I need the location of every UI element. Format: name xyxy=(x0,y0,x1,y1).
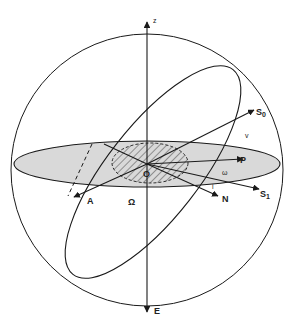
label-omega-node: Ω xyxy=(128,197,135,207)
label-e: E xyxy=(154,306,160,316)
celestial-sphere-diagram: z E O A Ω N P S0 S1 v ω i xyxy=(0,0,292,328)
label-p: P xyxy=(240,155,246,165)
label-s1: S1 xyxy=(260,189,270,200)
label-n: N xyxy=(222,194,229,204)
label-s0: S0 xyxy=(256,107,266,118)
label-o: O xyxy=(143,169,150,179)
label-omega-arg: ω xyxy=(222,169,228,176)
label-v: v xyxy=(245,132,249,139)
label-z: z xyxy=(153,17,157,24)
label-a: A xyxy=(87,196,94,206)
